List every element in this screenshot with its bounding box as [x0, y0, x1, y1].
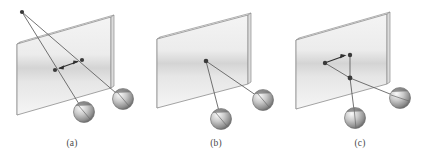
- plane-vertex-node: [204, 59, 209, 64]
- sphere-right: [390, 88, 411, 109]
- sphere-right: [253, 90, 274, 111]
- panel-a: (a): [0, 0, 144, 163]
- left-dot-node: [323, 61, 327, 65]
- caption-a: (a): [0, 138, 144, 148]
- figure-three-panel-diagram: (a): [0, 0, 432, 163]
- caption-b: (b): [144, 138, 288, 148]
- panel-c: (c): [288, 0, 432, 163]
- plane-right-edge: [387, 12, 390, 84]
- sphere-left: [345, 108, 366, 129]
- pierce-node-right: [80, 58, 84, 62]
- sphere-left: [74, 102, 95, 123]
- lower-vertex-node: [348, 76, 353, 81]
- pierce-node-left: [53, 68, 57, 72]
- plane-right-edge: [248, 13, 251, 84]
- plane-slab: [17, 15, 114, 115]
- sphere-right: [113, 89, 134, 110]
- plane-face: [296, 14, 387, 109]
- panel-b: (b): [144, 0, 288, 163]
- plane-right-edge: [111, 15, 114, 88]
- plane-slab: [296, 12, 390, 109]
- sphere-left: [211, 109, 232, 130]
- caption-c: (c): [288, 138, 432, 148]
- plane-face: [157, 15, 248, 108]
- apex-node: [20, 10, 24, 14]
- upper-node: [348, 53, 352, 57]
